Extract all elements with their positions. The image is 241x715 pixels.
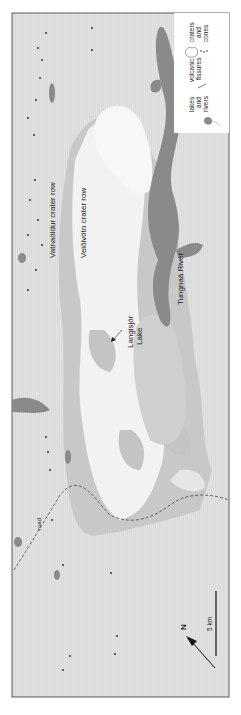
svg-text:fissures: fissures <box>195 57 202 80</box>
svg-text:rivers: rivers <box>202 95 209 112</box>
svg-text:volcanic: volcanic <box>188 58 195 82</box>
label-veidivotn-crater-row: Veiðivötn crater row <box>79 188 88 258</box>
scale-label: 5 km <box>206 617 213 631</box>
svg-text:cones: cones <box>202 24 209 42</box>
label-tungnaa-river: Tungnaá River <box>176 252 185 305</box>
svg-text:and: and <box>195 97 202 108</box>
svg-text:craters: craters <box>188 21 195 42</box>
map-figure: Vatnaöldur crater row Veiðivötn crater r… <box>0 0 241 715</box>
svg-text:and: and <box>195 27 202 38</box>
north-label: N <box>179 624 188 630</box>
label-langisjor-lake-2: Lake <box>135 327 144 345</box>
label-vatnaoldur-crater-row: Vatnaöldur crater row <box>48 182 57 258</box>
legend: lakes and rivers volcanic fissures crate… <box>174 13 229 133</box>
label-langisjor-lake-1: Langisjór <box>126 315 135 348</box>
lake-river-icon <box>204 117 212 124</box>
svg-text:lakes: lakes <box>188 96 195 112</box>
label-road: road <box>36 518 42 530</box>
